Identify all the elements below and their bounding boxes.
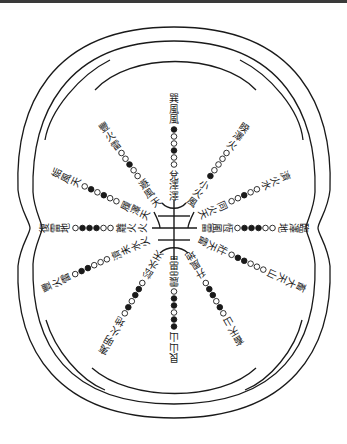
filled-dot-icon [126, 304, 132, 310]
filled-dot-icon [79, 268, 85, 274]
hollow-dot-icon [221, 311, 227, 317]
filled-dot-icon [88, 187, 94, 193]
outer-label-char: 山 [169, 331, 179, 342]
spoke-bottom-left: 天水訟地火明夷 [96, 248, 165, 357]
filled-dot-icon [94, 225, 100, 231]
top-inner-arc [95, 62, 256, 91]
hollow-dot-icon [140, 280, 146, 286]
hollow-dot-icon [224, 150, 230, 156]
outer-label-char: 地 [277, 223, 289, 233]
filled-dot-icon [136, 286, 142, 292]
bottom-inner-arc [92, 368, 256, 394]
filled-dot-icon [171, 324, 177, 330]
filled-dot-icon [256, 225, 262, 231]
hollow-dot-icon [91, 262, 97, 268]
hollow-dot-icon [82, 184, 88, 190]
inner-label-char: 雷 [169, 255, 179, 266]
inner-label-char: 兌 [169, 170, 179, 181]
spoke-right-lower: 雷天壯山天大畜 [196, 235, 309, 295]
outer-label-char: 澤 [288, 223, 299, 233]
spoke-left: 火火離地雷復 [38, 223, 148, 233]
outer-label-char: 地 [59, 223, 71, 233]
inner-label-char: 澤 [169, 191, 179, 202]
filled-dot-icon [171, 317, 177, 323]
filled-dot-icon [171, 303, 177, 309]
filled-dot-icon [235, 255, 241, 261]
hollow-dot-icon [171, 134, 177, 140]
hollow-dot-icon [229, 252, 235, 258]
hollow-dot-icon [135, 173, 141, 179]
hollow-dot-icon [270, 225, 276, 231]
filled-dot-icon [127, 162, 133, 168]
inner-label-char: 火 [126, 223, 137, 233]
inner-label-char: 風 [211, 223, 222, 233]
filled-dot-icon [241, 192, 247, 198]
outer-label-char: 雷 [50, 223, 61, 233]
filled-dot-icon [80, 225, 86, 231]
hollow-dot-icon [212, 167, 218, 173]
spoke-top: 澤澤兌風風巽 [169, 93, 179, 202]
hollow-dot-icon [114, 198, 120, 204]
hollow-dot-icon [171, 141, 177, 147]
hollow-dot-icon [72, 271, 78, 277]
filled-dot-icon [133, 292, 139, 298]
filled-dot-icon [241, 258, 247, 264]
hollow-dot-icon [108, 225, 114, 231]
hollow-dot-icon [203, 280, 209, 286]
inner-label-char: 澤 [169, 180, 179, 191]
hollow-dot-icon [129, 298, 135, 304]
filled-dot-icon [249, 225, 255, 231]
hollow-dot-icon [254, 187, 260, 193]
outer-label-char: 艮 [169, 352, 179, 363]
inner-label-char: 雷 [169, 265, 179, 276]
spoke-bottom: 雷雷震山山艮 [169, 255, 179, 364]
hollow-dot-icon [122, 311, 128, 317]
hollow-dot-icon [216, 162, 222, 168]
hollow-dot-icon [214, 298, 220, 304]
trigram-wheel-diagram: 澤澤兌風風巽風火小火澤睽天火同水火濟雷風恆地澤臨雷天壯山天大畜地風升山天畜雷雷震… [0, 0, 347, 444]
filled-dot-icon [101, 192, 107, 198]
filled-dot-icon [171, 127, 177, 133]
hollow-dot-icon [171, 155, 177, 161]
filled-dot-icon [242, 225, 248, 231]
hollow-dot-icon [248, 190, 254, 196]
outer-label-char: 風 [169, 104, 179, 115]
hollow-dot-icon [235, 225, 241, 231]
hollow-dot-icon [220, 156, 226, 162]
spoke-right: 雷風恆地澤臨 [201, 223, 311, 233]
filled-dot-icon [171, 148, 177, 154]
filled-dot-icon [207, 286, 213, 292]
spoke-left-lower: 火水未濟雷火豐 [39, 235, 152, 295]
bottom-right-inner-arc [245, 320, 302, 390]
hollow-dot-icon [263, 225, 269, 231]
inner-label-char: 震 [169, 276, 179, 287]
outer-label-char: 風 [169, 114, 179, 125]
hollow-dot-icon [171, 162, 177, 168]
hollow-dot-icon [123, 156, 129, 162]
filled-dot-icon [208, 173, 214, 179]
hollow-dot-icon [131, 167, 137, 173]
hollow-dot-icon [101, 225, 107, 231]
hollow-dot-icon [254, 264, 260, 270]
hollow-dot-icon [119, 150, 125, 156]
filled-dot-icon [85, 265, 91, 271]
hollow-dot-icon [98, 259, 104, 265]
inner-label-char: 離 [115, 223, 127, 233]
spoke-bottom-right: 地風升山天畜 [183, 248, 246, 348]
outer-label-char: 臨 [298, 223, 310, 233]
inner-label-char: 火 [137, 223, 148, 233]
hollow-dot-icon [104, 257, 110, 263]
hollow-dot-icon [229, 198, 235, 204]
hollow-dot-icon [248, 261, 254, 267]
inner-label-char: 雷 [201, 223, 212, 233]
hollow-dot-icon [95, 190, 101, 196]
filled-dot-icon [210, 292, 216, 298]
outer-label-char: 復 [38, 223, 50, 233]
filled-dot-icon [87, 225, 93, 231]
outer-label-char: 巽 [169, 93, 179, 104]
outer-label-char: 山 [169, 342, 179, 353]
hollow-dot-icon [235, 195, 241, 201]
filled-dot-icon [171, 296, 177, 302]
hollow-dot-icon [171, 289, 177, 295]
filled-dot-icon [217, 304, 223, 310]
